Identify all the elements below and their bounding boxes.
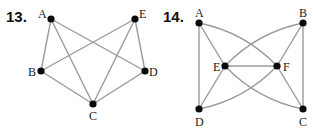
vertex-A <box>195 19 202 26</box>
vertex-label-E: E <box>213 60 220 74</box>
vertex-E <box>221 62 228 69</box>
curved-edge-D-F <box>199 66 277 109</box>
vertex-label-A: A <box>38 7 47 21</box>
vertex-E <box>131 15 138 22</box>
vertex-F <box>273 62 280 69</box>
graph-13: AEBDC <box>28 7 158 123</box>
vertex-label-F: F <box>283 60 290 74</box>
vertex-label-E: E <box>139 7 146 21</box>
vertex-C <box>89 100 96 107</box>
vertex-label-C: C <box>89 109 97 123</box>
vertex-label-A: A <box>195 6 204 20</box>
curved-edge-E-B <box>225 23 303 66</box>
curved-edge-A-F <box>199 23 277 66</box>
graph-14: ABEFDC <box>195 6 307 129</box>
vertex-B <box>299 19 306 26</box>
edge-A-B <box>41 19 51 71</box>
vertex-label-B: B <box>299 6 307 20</box>
graph-canvas: AEBDC ABEFDC <box>0 0 313 136</box>
vertex-D <box>195 105 202 112</box>
vertex-C <box>299 105 306 112</box>
vertex-B <box>37 67 44 74</box>
edge-E-D <box>135 19 145 71</box>
vertex-D <box>141 67 148 74</box>
vertex-label-B: B <box>28 65 36 79</box>
vertex-A <box>47 15 54 22</box>
vertex-label-C: C <box>299 115 307 129</box>
vertex-label-D: D <box>195 115 204 129</box>
curved-edge-E-C <box>225 66 303 109</box>
vertex-label-D: D <box>149 65 158 79</box>
